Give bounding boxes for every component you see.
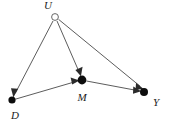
edge-m-to-y-line bbox=[87, 81, 138, 91]
node-u-label: U bbox=[44, 0, 53, 11]
edge-d-to-m bbox=[15, 77, 79, 99]
node-d-marker[interactable] bbox=[8, 96, 15, 103]
node-u-marker[interactable] bbox=[52, 14, 59, 21]
causal-graph-canvas: U D M Y bbox=[0, 0, 169, 125]
causal-diagram-figure: U D M Y bbox=[0, 0, 169, 125]
edge-u-to-d-line bbox=[15, 21, 53, 93]
edge-u-to-m-arrowhead bbox=[75, 67, 82, 76]
node-m-label: M bbox=[76, 91, 87, 103]
edge-group bbox=[11, 19, 143, 99]
edge-u-to-m-line bbox=[57, 21, 79, 72]
edge-u-to-d bbox=[11, 21, 53, 98]
node-m-marker[interactable] bbox=[78, 76, 87, 85]
node-y-marker[interactable] bbox=[140, 88, 148, 96]
edge-u-to-m bbox=[57, 21, 83, 76]
edge-d-to-m-line bbox=[15, 82, 75, 100]
node-d-label: D bbox=[10, 109, 19, 121]
edge-m-to-y bbox=[87, 81, 142, 94]
node-y-label: Y bbox=[153, 96, 161, 108]
edge-u-to-d-arrowhead bbox=[11, 88, 18, 97]
